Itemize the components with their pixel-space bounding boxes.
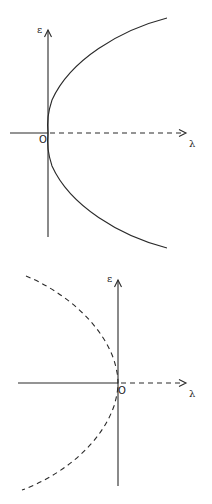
lambda-label: λ — [189, 388, 196, 399]
epsilon-label: ε — [107, 273, 112, 284]
lambda-axis-arrow-icon — [179, 380, 186, 387]
origin-label: O — [39, 134, 47, 145]
diagram-bottom: ε O λ — [18, 273, 196, 490]
bifurcation-diagrams: ε O λ ε O λ — [0, 0, 212, 504]
origin-label: O — [118, 385, 126, 396]
lambda-label: λ — [189, 138, 196, 149]
diagram-top: ε O λ — [10, 18, 196, 248]
epsilon-label: ε — [37, 24, 42, 35]
